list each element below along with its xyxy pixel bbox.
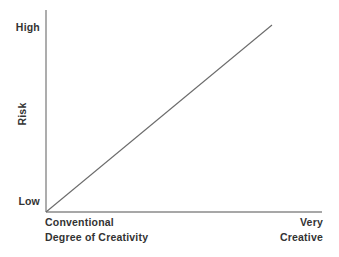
x-axis-right-label-line2: Creative bbox=[280, 231, 323, 243]
x-axis-right-label-group: Very Creative bbox=[280, 216, 323, 243]
chart-figure: High Low Risk Conventional Degree of Cre… bbox=[0, 0, 339, 257]
x-axis-right-label-line1: Very bbox=[280, 216, 323, 228]
y-axis-tick-low: Low bbox=[0, 195, 40, 207]
x-axis-left-label-group: Conventional Degree of Creativity bbox=[45, 216, 148, 243]
y-axis-tick-high: High bbox=[0, 21, 40, 33]
x-axis-left-label-line1: Conventional bbox=[45, 216, 148, 228]
x-axis-left-label-line2: Degree of Creativity bbox=[45, 231, 148, 243]
y-axis-title: Risk bbox=[16, 84, 28, 144]
data-line-risk-vs-creativity bbox=[46, 25, 272, 212]
